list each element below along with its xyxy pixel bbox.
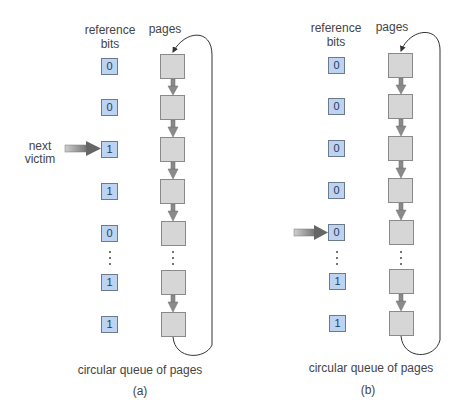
page-box xyxy=(388,94,413,119)
reference-bit: 0 xyxy=(328,98,345,115)
next-victim-label: next victim xyxy=(18,140,62,166)
pages-header: pages xyxy=(375,20,409,34)
reference-bit: 1 xyxy=(101,274,118,291)
reference-bit: 0 xyxy=(328,140,345,157)
page-box xyxy=(388,136,413,161)
queue-caption: circular queue of pages xyxy=(60,363,220,377)
sub-caption: (b) xyxy=(348,383,388,397)
queue-caption: circular queue of pages xyxy=(291,361,451,375)
reference-bit: 0 xyxy=(328,182,345,199)
page-box xyxy=(160,137,185,162)
header-line: reference xyxy=(84,23,136,37)
page-box xyxy=(161,221,186,246)
header-line: bits xyxy=(310,35,362,49)
page-box xyxy=(161,312,186,337)
reference-bit: 0 xyxy=(101,99,118,116)
reference-bit: 1 xyxy=(101,316,118,333)
label-line: victim xyxy=(18,153,62,166)
reference-bit: 0 xyxy=(101,225,118,242)
reference-bit: 0 xyxy=(101,58,118,75)
reference-bits-header: reference bits xyxy=(84,23,136,51)
pages-header: pages xyxy=(148,22,182,36)
header-line: reference xyxy=(310,21,362,35)
page-box xyxy=(388,178,413,203)
diagram-a-pointer-arrow xyxy=(65,141,101,156)
page-box xyxy=(388,53,413,78)
reference-bit: 1 xyxy=(329,315,346,332)
diagram-b-pointer-arrow xyxy=(294,225,328,240)
reference-bit: 1 xyxy=(101,183,118,200)
page-box xyxy=(160,54,185,79)
reference-bit: 1 xyxy=(329,273,346,290)
reference-bit: 0 xyxy=(328,224,345,241)
page-box xyxy=(160,95,185,120)
sub-caption: (a) xyxy=(120,384,160,398)
reference-bit: 1 xyxy=(101,141,118,158)
page-box xyxy=(389,220,414,245)
page-box xyxy=(160,179,185,204)
reference-bit: 0 xyxy=(328,57,345,74)
page-box xyxy=(389,311,414,336)
header-line: bits xyxy=(84,37,136,51)
reference-bits-header: reference bits xyxy=(310,21,362,49)
page-box xyxy=(161,270,186,295)
page-box xyxy=(389,269,414,294)
